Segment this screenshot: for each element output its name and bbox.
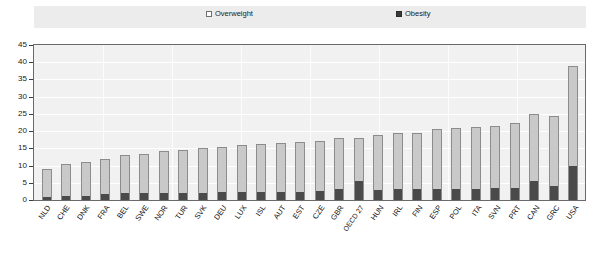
x-axis-tick: NOR <box>153 202 173 262</box>
bar-segment-obesity <box>569 166 577 200</box>
x-axis-tick: ISL <box>251 202 271 262</box>
bar-segment-obesity <box>511 188 519 200</box>
bar-segment-obesity <box>101 194 109 200</box>
stacked-bar[interactable] <box>237 145 247 200</box>
bar-column <box>154 45 174 200</box>
stacked-bar[interactable] <box>549 116 559 200</box>
bar-segment-obesity <box>530 181 538 200</box>
stacked-bar[interactable] <box>81 162 91 200</box>
bar-segment-overweight <box>472 128 480 189</box>
bar-segment-obesity <box>491 188 499 200</box>
stacked-bar[interactable] <box>412 133 422 200</box>
x-axis-tick: CZE <box>310 202 330 262</box>
x-axis-tick: OECD 27 <box>349 202 369 262</box>
bar-segment-overweight <box>82 163 90 196</box>
y-axis-tick-label: 45 <box>18 41 27 49</box>
legend-label-overweight: Overweight <box>215 10 253 18</box>
bar-segment-obesity <box>277 192 285 200</box>
stacked-bar[interactable] <box>373 135 383 200</box>
bar-segment-overweight <box>43 170 51 197</box>
stacked-bar[interactable] <box>354 138 364 200</box>
bar-column <box>447 45 467 200</box>
stacked-bar[interactable] <box>256 144 266 200</box>
bar-segment-overweight <box>62 165 70 196</box>
bar-segment-overweight <box>316 142 324 191</box>
bar-column <box>174 45 194 200</box>
x-axis-tick: ESP <box>428 202 448 262</box>
stacked-bar[interactable] <box>42 169 52 200</box>
bar-column <box>213 45 233 200</box>
stacked-bar[interactable] <box>198 148 208 200</box>
bar-segment-obesity <box>140 193 148 200</box>
x-axis-tick: ITA <box>467 202 487 262</box>
stacked-bar[interactable] <box>510 123 520 201</box>
x-axis-tick: TUR <box>173 202 193 262</box>
stacked-bar[interactable] <box>295 142 305 200</box>
bar-segment-obesity <box>355 181 363 200</box>
bar-segment-overweight <box>140 155 148 194</box>
bar-column <box>37 45 57 200</box>
stacked-bar[interactable] <box>451 128 461 200</box>
x-axis-tick: DNK <box>75 202 95 262</box>
bar-column <box>193 45 213 200</box>
stacked-bar[interactable] <box>276 143 286 200</box>
bar-segment-obesity <box>82 196 90 200</box>
stacked-bar[interactable] <box>490 126 500 200</box>
bar-column <box>505 45 525 200</box>
stacked-bar[interactable] <box>529 114 539 200</box>
bar-segment-overweight <box>257 145 265 192</box>
chart-legend: Overweight Obesity <box>34 6 586 28</box>
bar-column <box>525 45 545 200</box>
stacked-bar[interactable] <box>178 150 188 200</box>
bar-column <box>76 45 96 200</box>
y-axis-tick-label: 10 <box>18 162 27 170</box>
stacked-bar[interactable] <box>568 66 578 200</box>
y-axis-tick-label: 15 <box>18 144 27 152</box>
stacked-bar[interactable] <box>315 141 325 200</box>
bar-column <box>466 45 486 200</box>
stacked-bar[interactable] <box>139 154 149 201</box>
x-axis-tick-label: NLD <box>37 204 52 221</box>
bar-column <box>271 45 291 200</box>
stacked-bar[interactable] <box>61 164 71 200</box>
x-axis-tick-label: DEU <box>213 204 228 221</box>
bar-segment-obesity <box>296 192 304 200</box>
x-axis-tick: LUX <box>232 202 252 262</box>
x-axis-tick: SVN <box>486 202 506 262</box>
stacked-bar[interactable] <box>432 129 442 200</box>
bars-container <box>34 45 585 200</box>
bar-segment-obesity <box>413 189 421 200</box>
x-axis-tick: POL <box>447 202 467 262</box>
x-axis-tick: CHE <box>56 202 76 262</box>
bar-segment-obesity <box>179 193 187 200</box>
y-axis-tick-label: 25 <box>18 110 27 118</box>
stacked-bar[interactable] <box>217 147 227 200</box>
stacked-bar[interactable] <box>393 133 403 200</box>
y-axis-tick-label: 30 <box>18 93 27 101</box>
bar-segment-obesity <box>238 192 246 200</box>
y-axis-tick-label: 0 <box>23 196 27 204</box>
x-axis-tick-label: NOR <box>154 204 170 222</box>
bar-column <box>408 45 428 200</box>
x-axis-tick: PRT <box>506 202 526 262</box>
x-axis-tick: FRA <box>95 202 115 262</box>
bar-segment-overweight <box>413 134 421 189</box>
stacked-bar[interactable] <box>100 159 110 200</box>
stacked-bar[interactable] <box>120 155 130 200</box>
bar-column <box>388 45 408 200</box>
x-axis-tick-label: USA <box>566 204 581 221</box>
stacked-bar[interactable] <box>471 127 481 200</box>
bar-column <box>310 45 330 200</box>
stacked-bar[interactable] <box>159 151 169 200</box>
bar-column <box>330 45 350 200</box>
bar-segment-obesity <box>257 192 265 200</box>
bar-segment-obesity <box>394 189 402 200</box>
bar-column <box>135 45 155 200</box>
bar-column <box>427 45 447 200</box>
stacked-bar[interactable] <box>334 138 344 200</box>
bar-segment-overweight <box>355 139 363 181</box>
x-axis-tick: GRC <box>545 202 565 262</box>
legend-label-obesity: Obesity <box>405 10 430 18</box>
x-axis-tick: IRL <box>388 202 408 262</box>
x-axis-tick: FIN <box>408 202 428 262</box>
